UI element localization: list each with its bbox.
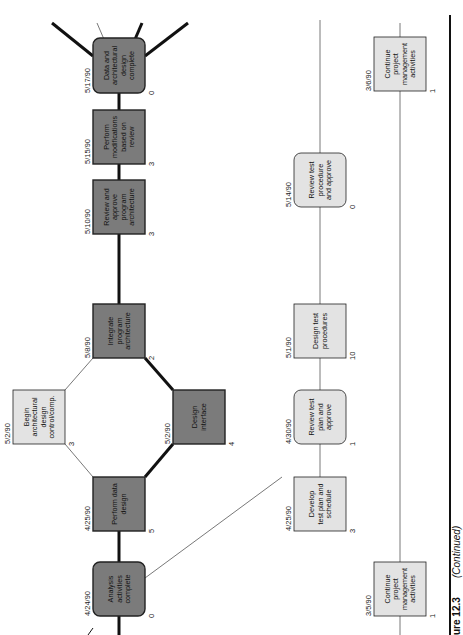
node-label-line: procedures — [320, 313, 329, 349]
node-duration: 1 — [428, 614, 437, 618]
node-date: 5/8/90 — [83, 337, 92, 358]
node-duration: 5 — [147, 529, 156, 533]
figure-caption: ure 12.3 (Continued) — [451, 526, 462, 635]
node-label: Data andarchitecturaldesigncomplete — [102, 46, 136, 86]
node-label-line: architecture — [127, 188, 136, 226]
node-label-line: and approve — [324, 160, 333, 200]
node-label-line: activities — [408, 575, 417, 603]
node-label: Review testprocedureand approve — [307, 160, 333, 200]
node-label: Designinterface — [190, 403, 207, 431]
node-perform-modifications: Performmodificationsbased onreview5/15/9… — [83, 110, 156, 166]
edge-critical — [52, 23, 93, 56]
edge — [65, 444, 93, 477]
node-duration: 3 — [67, 442, 76, 446]
node-continue-pm-top: Continueprojectmanagementactivities3/6/9… — [364, 37, 437, 93]
node-date: 4/25/90 — [83, 506, 92, 531]
node-design-interface: Designinterface5/2/904 — [163, 390, 236, 446]
node-label-line: schedule — [324, 490, 333, 519]
node-date: 5/17/90 — [83, 68, 92, 93]
node-date: 3/5/90 — [364, 595, 373, 616]
caption-figure-number: ure 12.3 — [451, 597, 462, 635]
node-label-line: complete — [123, 574, 132, 603]
node-duration: 4 — [227, 442, 236, 446]
node-label-line: activities — [408, 50, 417, 78]
node-duration: 0 — [147, 91, 156, 95]
edge-critical — [145, 23, 188, 56]
node-date: 5/2/90 — [3, 423, 12, 444]
node-perform-data-design: Perform datadesign4/25/905 — [83, 477, 156, 533]
edge — [65, 358, 93, 390]
node-duration: 0 — [348, 205, 357, 209]
node-develop-test-plan: Developtest plan andschedule4/25/903 — [284, 477, 357, 533]
node-duration: 0 — [147, 614, 156, 618]
node-duration: 10 — [348, 352, 357, 360]
caption-continued: (Continued) — [451, 526, 462, 578]
node-label-line: design — [119, 493, 128, 514]
node-duration: 3 — [147, 232, 156, 236]
node-duration: 3 — [348, 529, 357, 533]
node-label-line: complete — [127, 51, 136, 80]
node-review-test-plan: Review testplan andapprove4/30/901 — [284, 390, 357, 446]
node-date: 5/14/90 — [284, 182, 293, 207]
node-date: 4/25/90 — [284, 506, 293, 531]
node-date: 5/10/90 — [83, 209, 92, 234]
node-date: 5/2/90 — [163, 423, 172, 444]
node-label: Review andapproveprogramarchitecture — [102, 188, 136, 226]
node-date: 4/30/90 — [284, 419, 293, 444]
node-date: 5/15/90 — [83, 139, 92, 164]
node-review-approve-arch: Review andapproveprogramarchitecture5/10… — [83, 180, 156, 236]
node-label-line: approve — [324, 404, 333, 430]
node-date: 3/6/90 — [364, 70, 373, 91]
edge-critical — [145, 358, 173, 390]
node-label: Analysisactivitiescomplete — [106, 574, 132, 603]
node-duration: 1 — [428, 89, 437, 93]
node-label-line: control/comp. — [47, 395, 56, 438]
edge — [88, 628, 93, 635]
node-analysis-complete: Analysisactivitiescomplete4/24/900 — [83, 562, 156, 618]
edge — [145, 477, 282, 578]
node-label: Integrateprogramarchitecture — [106, 312, 132, 350]
edge-critical — [145, 444, 173, 477]
node-duration: 3 — [147, 162, 156, 166]
nodes: Data andarchitecturaldesigncomplete5/17/… — [3, 37, 437, 618]
node-begin-arch-control: Beginarchitecturaldesigncontrol/comp.5/2… — [3, 390, 76, 446]
node-date: 4/24/90 — [83, 591, 92, 616]
node-label-line: review — [127, 126, 136, 148]
node-label-line: architecture — [123, 312, 132, 350]
node-label: Design testprocedures — [311, 313, 328, 349]
network-diagram: Data andarchitecturaldesigncomplete5/17/… — [0, 0, 463, 635]
node-review-test-procedure: Review testprocedureand approve5/14/900 — [284, 153, 357, 209]
node-label-line: interface — [199, 403, 208, 431]
node-date: 5/1/90 — [284, 337, 293, 358]
node-duration: 1 — [348, 442, 357, 446]
node-design-test-procedures: Design testprocedures5/1/9010 — [284, 304, 357, 360]
node-duration: 2 — [147, 356, 156, 360]
node-integrate-arch: Integrateprogramarchitecture5/8/902 — [83, 304, 156, 360]
node-continue-pm-bottom: Continueprojectmanagementactivities3/5/9… — [364, 562, 437, 618]
node-data-arch-complete: Data andarchitecturaldesigncomplete5/17/… — [83, 38, 156, 95]
